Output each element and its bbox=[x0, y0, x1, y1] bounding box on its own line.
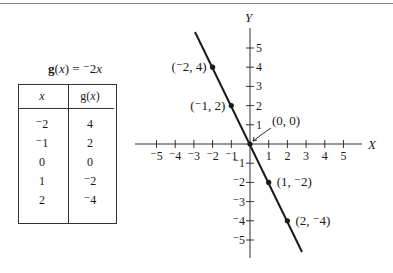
point-label: (2, ⁻4) bbox=[295, 213, 330, 228]
x-tick-label: ⁻5 bbox=[150, 149, 162, 163]
data-point bbox=[229, 103, 234, 108]
x-tick-label: ⁻3 bbox=[188, 149, 200, 163]
y-tick-label: 1 bbox=[256, 118, 262, 132]
y-tick-label: ⁻2 bbox=[233, 175, 245, 189]
y-tick-label: ⁻1 bbox=[233, 156, 245, 170]
x-tick-label: ⁻2 bbox=[206, 149, 218, 163]
data-point bbox=[210, 65, 215, 70]
point-label: (0, 0) bbox=[272, 113, 300, 128]
x-tick-label: 2 bbox=[284, 149, 290, 163]
y-axis-label: Y bbox=[245, 10, 254, 25]
coordinate-graph: X Y ⁻5⁻4⁻3⁻2⁻11234554321⁻1⁻2⁻3⁻4⁻5 (⁻2, … bbox=[0, 0, 393, 273]
data-point bbox=[266, 180, 271, 185]
y-tick-label: ⁻4 bbox=[233, 214, 245, 228]
y-tick-label: 3 bbox=[256, 79, 262, 93]
x-axis-label: X bbox=[367, 137, 377, 152]
data-point bbox=[247, 141, 252, 146]
y-tick-label: 5 bbox=[256, 41, 262, 55]
y-tick-label: ⁻3 bbox=[233, 195, 245, 209]
x-tick-label: 3 bbox=[303, 149, 309, 163]
x-tick-label: 4 bbox=[322, 149, 328, 163]
point-label: (1, ⁻2) bbox=[277, 174, 312, 189]
x-tick-label: 5 bbox=[341, 149, 347, 163]
x-tick-label: 1 bbox=[266, 149, 272, 163]
y-tick-label: ⁻5 bbox=[233, 233, 245, 247]
point-label: (⁻1, 2) bbox=[190, 98, 225, 113]
point-label: (⁻2, 4) bbox=[172, 59, 207, 74]
y-tick-label: 4 bbox=[256, 60, 262, 74]
x-tick-label: ⁻4 bbox=[169, 149, 181, 163]
y-tick-label: 2 bbox=[256, 99, 262, 113]
data-point bbox=[285, 218, 290, 223]
